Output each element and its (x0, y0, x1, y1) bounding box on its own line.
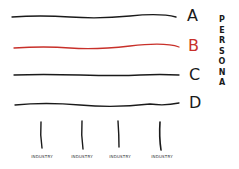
persona-letter: S (219, 47, 225, 58)
industry-stroke-3 (118, 121, 119, 147)
industry-stroke-1 (41, 122, 42, 148)
persona-line-d (15, 103, 179, 106)
row-label-b: B (188, 38, 199, 54)
persona-line-b (14, 44, 179, 48)
industry-label-1: INDUSTRY (27, 154, 57, 159)
persona-letter: A (219, 78, 225, 89)
persona-letter: O (219, 57, 226, 68)
persona-side-label: P E R S O N A (216, 15, 228, 89)
industry-label-2: INDUSTRY (67, 154, 97, 159)
persona-letter: R (219, 36, 225, 47)
row-label-c: C (189, 67, 200, 83)
persona-letter: E (219, 26, 224, 37)
persona-line-c (14, 75, 179, 76)
persona-letter: N (219, 68, 226, 79)
industry-label-3: INDUSTRY (105, 154, 135, 159)
industry-stroke-2 (82, 121, 83, 149)
row-label-a: A (187, 8, 198, 24)
row-label-d: D (189, 95, 201, 111)
industry-label-4: INDUSTRY (147, 154, 177, 159)
persona-line-a (12, 15, 176, 18)
sketch-canvas (0, 0, 239, 169)
industry-stroke-4 (160, 122, 161, 150)
persona-letter: P (219, 15, 225, 26)
